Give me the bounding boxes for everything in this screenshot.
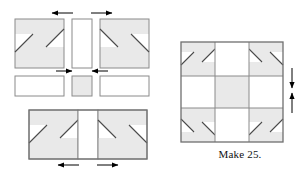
block-cell-middle-left (181, 76, 215, 108)
block-cell-middle-right (249, 76, 283, 108)
block-cell-bottom-right (249, 108, 283, 142)
sashing-rect-horizontal-right (100, 76, 149, 96)
corner-unit-bottom-left (29, 110, 78, 159)
joined-bottom-unit (29, 110, 147, 159)
block-cell-top-left (181, 42, 215, 76)
sashing-rect-vertical (72, 19, 92, 68)
sashing-rect-vertical-bottom (78, 110, 98, 159)
right-assembled-block (181, 42, 292, 142)
block-cell-top-right (249, 42, 283, 76)
corner-unit-bottom-right (98, 110, 147, 159)
block-cell-bottom-left (181, 108, 215, 142)
sashing-rect-horizontal-left (15, 76, 64, 96)
block-cell-bottom-center (215, 108, 249, 142)
left-exploded-view (15, 13, 149, 165)
block-cell-center (215, 76, 249, 108)
figure-canvas: Make 25. (0, 0, 302, 174)
center-square (72, 76, 92, 96)
corner-unit-top-left (15, 19, 64, 68)
block-caption: Make 25. (190, 148, 290, 160)
block-cell-top-center (215, 42, 249, 76)
corner-unit-top-right (100, 19, 149, 68)
